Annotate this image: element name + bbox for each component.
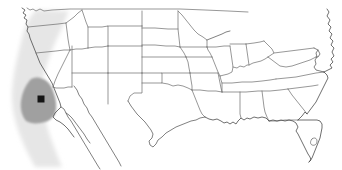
north-carolina-virginia-border: [276, 72, 324, 79]
south-dakota-nebraska-border: [142, 45, 180, 47]
minnesota-wisconsin-border: [178, 11, 207, 47]
west-virginia-outline: [264, 41, 274, 57]
illinois-indiana-border: [220, 46, 233, 76]
pennsylvania-maryland-border: [274, 48, 314, 53]
oklahoma-panhandle-border: [142, 73, 162, 83]
nebraska-iowa-border: [180, 47, 186, 57]
gulf-of-california-east-shore: [74, 86, 121, 166]
north-south-dakota-border: [142, 28, 178, 29]
tennessee-south-border: [222, 89, 288, 92]
kentucky-tennessee-border: [222, 79, 276, 83]
idaho-montana-border: [66, 10, 82, 23]
ohio-kentucky-river: [233, 57, 268, 68]
atlantic-coastline-midatlantic: [324, 9, 334, 72]
mississippi-alabama-border: [240, 92, 241, 118]
idaho-east-border: [82, 10, 88, 48]
alabama-georgia-border: [262, 91, 269, 121]
lake-michigan-west: [207, 31, 230, 40]
new-mexico-texas-border: [128, 73, 142, 101]
dakota-minnesota-border: [178, 11, 180, 47]
kansas-missouri-border: [186, 57, 190, 73]
lake-okeechobee: [311, 138, 318, 145]
oklahoma-arkansas-border: [190, 73, 192, 90]
wisconsin-illinois-border: [207, 46, 230, 47]
texas-louisiana-border: [192, 90, 205, 117]
oregon-california-border: [36, 50, 70, 53]
map-figure: Outline map of the contiguous United Sta…: [0, 0, 342, 170]
georgia-south-carolina-border: [288, 89, 307, 114]
gulf-coastline: [205, 117, 311, 162]
nevada-california-border: [53, 50, 70, 87]
indiana-ohio-border: [246, 44, 249, 65]
arkansas-louisiana-border: [192, 90, 222, 92]
state-boundaries-layer: [0, 0, 342, 170]
baja-california-outline: [61, 107, 100, 169]
texas-gulf-coast: [128, 101, 205, 147]
idaho-west-border: [66, 23, 70, 50]
baja-peninsula-detail: [66, 113, 90, 143]
oklahoma-texas-border: [162, 83, 192, 90]
south-north-carolina-border: [288, 85, 318, 89]
washington-oregon-border: [28, 23, 66, 27]
chesapeake-bay: [314, 50, 324, 72]
oregon-nevada-border: [70, 48, 88, 50]
atlantic-coastline-southeast: [298, 72, 328, 120]
idaho-south-border: [88, 46, 108, 48]
ohio-michigan-border: [246, 41, 264, 44]
idaho-wyoming-border: [88, 26, 108, 46]
nevada-arizona-border: [53, 87, 72, 88]
iowa-illinois-border: [207, 47, 212, 57]
canada-border: [27, 8, 248, 12]
virginia-west-virginia-border: [268, 57, 316, 67]
